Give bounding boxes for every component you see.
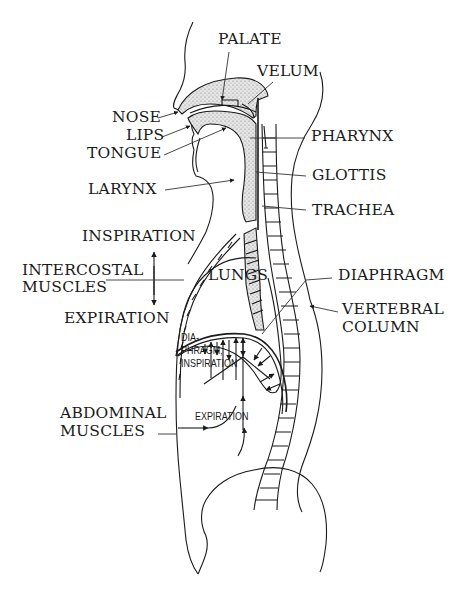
label-abdominal-2: MUSCLES [60,423,145,440]
label-abdominal-1: ABDOMINAL [60,405,167,422]
label-intercostal-1: INTERCOSTAL [22,262,143,279]
label-dia-1: DIA- [181,331,199,343]
label-dia-2: PHRAGM, [181,344,223,356]
label-expiration: EXPIRATION [64,310,170,327]
label-inspiration: INSPIRATION [82,228,196,245]
label-glottis: GLOTTIS [312,167,387,184]
label-lips: LIPS [126,127,164,144]
label-dia-3: INSPIRATION [181,357,237,369]
label-abdominal-expiration: EXPIRATION [195,410,248,422]
oral-tongue [188,111,256,222]
pelvis [254,468,326,572]
label-nose: NOSE [112,109,161,126]
label-pharynx: PHARYNX [311,128,394,145]
label-vertebral-2: COLUMN [342,319,420,336]
label-palate: PALATE [218,31,282,48]
label-tongue: TONGUE [87,145,162,162]
label-lungs: LUNGS [208,267,268,284]
intercostal-muscles [176,234,240,398]
anatomy-diagram [0,0,467,592]
label-intercostal-2: MUSCLES [22,279,107,296]
label-larynx: LARYNX [88,181,157,198]
label-trachea: TRACHEA [312,202,395,219]
label-velum: VELUM [257,63,319,80]
label-diaphragm: DIAPHRAGM [338,267,445,284]
label-vertebral-1: VERTEBRAL [342,301,444,318]
back-of-head [291,72,323,300]
abdomen-outline [176,398,198,574]
